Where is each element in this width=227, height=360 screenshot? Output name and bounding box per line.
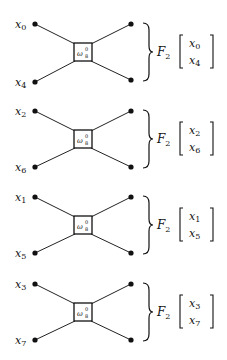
edge bbox=[35, 284, 75, 304]
twiddle-sub: 8 bbox=[85, 140, 88, 146]
output-dot bbox=[128, 77, 133, 82]
bottom-input-label: x7 bbox=[15, 334, 26, 348]
edge bbox=[91, 234, 131, 253]
edge bbox=[35, 148, 75, 167]
input-dot bbox=[32, 194, 37, 199]
operator-label: F2 bbox=[156, 45, 170, 61]
edge bbox=[91, 284, 131, 304]
output-dot bbox=[128, 281, 133, 286]
input-dot bbox=[32, 21, 37, 26]
left-bracket bbox=[180, 35, 183, 68]
edge bbox=[91, 111, 131, 131]
bottom-input-label: x5 bbox=[15, 247, 26, 261]
top-input-label: x2 bbox=[15, 105, 26, 119]
twiddle-sup: 0 bbox=[85, 46, 88, 52]
butterfly-diagram: ω 0 8 x0 x4 F2 x0 x4 ω 0 8 x2 x6 F2 x2 bbox=[0, 0, 227, 360]
edge bbox=[35, 24, 75, 44]
right-brace bbox=[143, 110, 153, 168]
output-dot bbox=[128, 164, 133, 169]
edge bbox=[35, 61, 75, 82]
twiddle-label: ω bbox=[77, 50, 83, 58]
twiddle-sup: 0 bbox=[85, 306, 88, 312]
bottom-input-label: x6 bbox=[15, 161, 26, 175]
input-dot bbox=[32, 250, 37, 255]
left-bracket bbox=[180, 295, 183, 328]
butterfly-block-3: ω 0 8 x3 x7 F2 x3 x7 bbox=[15, 278, 213, 348]
right-bracket bbox=[210, 35, 213, 68]
twiddle-sup: 0 bbox=[85, 133, 88, 139]
top-input-label: x1 bbox=[15, 191, 26, 205]
right-brace bbox=[143, 196, 153, 254]
twiddle-label: ω bbox=[77, 223, 83, 231]
vector-entry: x6 bbox=[189, 141, 200, 155]
bottom-input-label: x4 bbox=[15, 76, 26, 90]
input-dot bbox=[32, 164, 37, 169]
output-dot bbox=[128, 21, 133, 26]
vector-entry: x5 bbox=[189, 227, 200, 241]
edge bbox=[91, 321, 131, 340]
top-input-label: x0 bbox=[15, 18, 26, 32]
right-brace bbox=[143, 23, 153, 81]
vector-entry: x7 bbox=[189, 314, 200, 328]
twiddle-sup: 0 bbox=[85, 219, 88, 225]
output-dot bbox=[128, 337, 133, 342]
vector-entry: x4 bbox=[189, 54, 200, 68]
edge bbox=[91, 24, 131, 44]
butterfly-block-1: ω 0 8 x2 x6 F2 x2 x6 bbox=[15, 105, 213, 175]
twiddle-label: ω bbox=[77, 137, 83, 145]
right-bracket bbox=[210, 208, 213, 241]
input-dot bbox=[32, 79, 37, 84]
output-dot bbox=[128, 250, 133, 255]
butterfly-block-2: ω 0 8 x1 x5 F2 x1 x5 bbox=[15, 191, 213, 261]
right-bracket bbox=[210, 122, 213, 155]
input-dot bbox=[32, 337, 37, 342]
operator-label: F2 bbox=[156, 218, 170, 234]
right-bracket bbox=[210, 295, 213, 328]
vector-entry: x2 bbox=[189, 124, 200, 138]
output-dot bbox=[128, 194, 133, 199]
edge bbox=[35, 234, 75, 253]
edge bbox=[35, 321, 75, 340]
twiddle-sub: 8 bbox=[85, 53, 88, 59]
edge bbox=[91, 148, 131, 167]
vector-entry: x0 bbox=[189, 37, 200, 51]
edge bbox=[35, 197, 75, 217]
vector-entry: x3 bbox=[189, 297, 200, 311]
input-dot bbox=[32, 108, 37, 113]
top-input-label: x3 bbox=[15, 278, 26, 292]
twiddle-sub: 8 bbox=[85, 313, 88, 319]
butterfly-block-0: ω 0 8 x0 x4 F2 x0 x4 bbox=[15, 18, 213, 90]
edge bbox=[35, 111, 75, 131]
edge bbox=[91, 197, 131, 217]
edge bbox=[91, 61, 131, 80]
twiddle-label: ω bbox=[77, 310, 83, 318]
output-dot bbox=[128, 108, 133, 113]
operator-label: F2 bbox=[156, 305, 170, 321]
left-bracket bbox=[180, 208, 183, 241]
vector-entry: x1 bbox=[189, 210, 200, 224]
right-brace bbox=[143, 283, 153, 341]
twiddle-sub: 8 bbox=[85, 226, 88, 232]
input-dot bbox=[32, 281, 37, 286]
left-bracket bbox=[180, 122, 183, 155]
operator-label: F2 bbox=[156, 132, 170, 148]
